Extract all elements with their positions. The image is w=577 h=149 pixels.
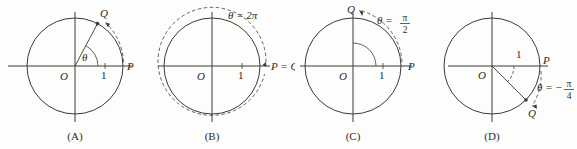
interior-angle-arc — [353, 43, 376, 66]
panel-b: O 1 P = Q θ = 2π (B) — [150, 0, 295, 149]
angle-value-label: θ = 2π — [228, 9, 258, 21]
origin-label: O — [60, 70, 68, 82]
point-q-label: Q — [347, 3, 355, 15]
point-q-label: Q — [100, 7, 108, 19]
origin-label: O — [339, 70, 347, 82]
panel-caption-d: (D) — [484, 130, 500, 143]
point-p-equals-q-label: P = Q — [270, 60, 295, 72]
point-p-label: P — [126, 60, 134, 72]
unit-circle-figure: O 1 P Q θ (A) O 1 P = Q θ = 2π (B) — [0, 0, 577, 149]
angle-numerator: π — [403, 13, 408, 23]
radius-label: 1 — [101, 69, 107, 81]
angle-denominator: 4 — [567, 91, 572, 101]
radius-label: 1 — [379, 69, 385, 81]
panel-a: O 1 P Q θ (A) — [0, 0, 150, 149]
interior-angle-arc — [86, 46, 98, 66]
angle-theta-label: θ — [82, 51, 88, 63]
point-q-marker — [524, 98, 528, 102]
point-q-marker — [96, 22, 100, 26]
panel-caption-c: (C) — [346, 130, 361, 143]
angle-numerator: π — [567, 79, 572, 89]
radius-to-q — [492, 66, 526, 100]
panel-d: O 1 P Q θ = − π 4 (D) — [440, 0, 577, 149]
radius-label: 1 — [516, 48, 522, 60]
angle-equals-label: θ = — [377, 14, 393, 26]
angle-denominator: 2 — [403, 25, 408, 35]
point-q-label: Q — [528, 107, 536, 119]
origin-label: O — [197, 70, 205, 82]
sweep-arc — [106, 23, 124, 63]
origin-label: O — [478, 69, 486, 81]
interior-angle-arc — [508, 66, 514, 82]
panel-caption-a: (A) — [67, 130, 83, 143]
panel-caption-b: (B) — [205, 130, 220, 143]
point-p-label: P — [407, 60, 415, 72]
angle-equals-label: θ = − — [537, 81, 563, 93]
point-p-label: P — [542, 54, 550, 66]
panel-c: O 1 P Q θ = π 2 (C) — [295, 0, 440, 149]
radius-label: 1 — [238, 69, 244, 81]
